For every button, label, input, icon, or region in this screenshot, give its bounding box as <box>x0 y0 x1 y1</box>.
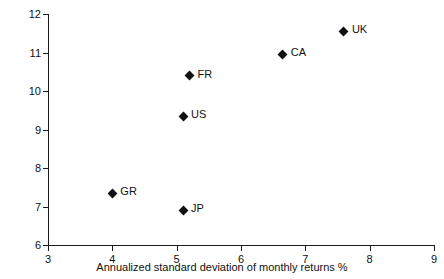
y-tick-label-6: 6 <box>35 240 41 251</box>
data-point-label-us: US <box>191 109 206 120</box>
y-tick-label-7: 7 <box>35 201 41 212</box>
data-point-label-uk: UK <box>352 24 367 35</box>
y-tick-7 <box>43 207 48 208</box>
x-tick-8 <box>370 246 371 251</box>
diamond-marker-icon <box>107 188 117 198</box>
x-tick-5 <box>177 246 178 251</box>
diamond-marker-icon <box>185 71 195 81</box>
y-tick-label-12: 12 <box>29 9 41 20</box>
data-point-label-ca: CA <box>291 47 306 58</box>
y-axis-line <box>48 14 49 246</box>
y-tick-label-11: 11 <box>30 47 41 58</box>
y-tick-10 <box>43 91 48 92</box>
y-tick-12 <box>43 14 48 15</box>
x-tick-9 <box>434 246 435 251</box>
chart-figure: 6789101112 3456789 GRJPUSFRCAUK Annualiz… <box>0 0 444 279</box>
diamond-marker-icon <box>339 26 349 36</box>
y-tick-9 <box>43 130 48 131</box>
diamond-marker-icon <box>178 111 188 121</box>
y-tick-8 <box>43 168 48 169</box>
diamond-marker-icon <box>278 49 288 59</box>
x-tick-7 <box>305 246 306 251</box>
x-tick-3 <box>48 246 49 251</box>
x-tick-6 <box>241 246 242 251</box>
data-point-label-gr: GR <box>120 186 137 197</box>
y-tick-11 <box>43 53 48 54</box>
x-tick-4 <box>112 246 113 251</box>
x-axis-title: Annualized standard deviation of monthly… <box>0 262 444 273</box>
y-tick-label-9: 9 <box>35 124 41 135</box>
y-tick-label-10: 10 <box>29 86 41 97</box>
plot-area: 6789101112 3456789 GRJPUSFRCAUK <box>48 14 434 245</box>
diamond-marker-icon <box>178 205 188 215</box>
data-point-label-jp: JP <box>191 203 204 214</box>
y-tick-label-8: 8 <box>35 163 41 174</box>
data-point-label-fr: FR <box>198 69 213 80</box>
